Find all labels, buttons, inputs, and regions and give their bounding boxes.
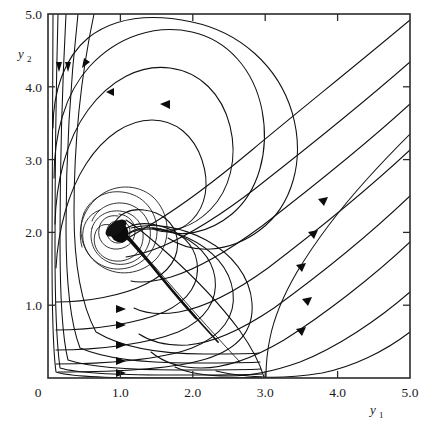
plot-frame bbox=[48, 14, 410, 378]
trajectory-1e bbox=[74, 14, 259, 354]
flow-arrow-group bbox=[56, 58, 328, 377]
y-tick-label-5: 5.0 bbox=[25, 7, 42, 22]
trajectory-group bbox=[52, 14, 410, 378]
flow-arrow-downright-1 bbox=[82, 58, 90, 68]
flow-arrow-right-1 bbox=[116, 305, 126, 313]
x-tick-label-3: 3.0 bbox=[257, 385, 274, 400]
trajectory-1b bbox=[55, 14, 262, 375]
x-axis-label-text: y bbox=[368, 402, 376, 417]
trajectory-1d bbox=[66, 14, 260, 363]
y-axis-label: y 2 bbox=[16, 46, 32, 64]
x-tick-label-4: 4.0 bbox=[329, 385, 346, 400]
x-axis-label: y 1 bbox=[368, 402, 384, 420]
trajectory-2c bbox=[55, 67, 233, 230]
trajectory-15 bbox=[122, 20, 410, 242]
y-tick-label-3: 3.0 bbox=[25, 153, 42, 168]
y-tick-label-group: 5.0 4.0 3.0 2.0 1.0 bbox=[25, 7, 42, 313]
flow-arrow-right-3 bbox=[116, 341, 126, 349]
x-tick-group bbox=[120, 14, 337, 378]
flow-arrow-upleft-2 bbox=[308, 230, 318, 239]
trajectory-14 bbox=[126, 62, 410, 257]
x-tick-label-5: 5.0 bbox=[402, 385, 419, 400]
trajectory-13 bbox=[131, 104, 410, 282]
flow-arrow-upleft-1 bbox=[318, 197, 328, 206]
y-tick-label-2: 2.0 bbox=[25, 225, 42, 240]
flow-arrow-upleft-4 bbox=[302, 297, 312, 306]
trajectory-2e bbox=[53, 18, 297, 249]
phase-portrait-svg: 5.0 4.0 3.0 2.0 1.0 0 1.0 2.0 3.0 4.0 5.… bbox=[0, 0, 433, 424]
x-tick-label-1: 1.0 bbox=[112, 385, 129, 400]
trajectory-1 bbox=[52, 14, 262, 378]
phase-portrait-figure: 5.0 4.0 3.0 2.0 1.0 0 1.0 2.0 3.0 4.0 5.… bbox=[0, 0, 433, 424]
y-axis-label-text: y bbox=[16, 46, 24, 61]
x-axis-label-subscript: 1 bbox=[379, 410, 384, 420]
flow-arrow-right-2 bbox=[116, 321, 126, 329]
y-tick-group bbox=[48, 87, 410, 305]
flow-arrow-left-2 bbox=[160, 100, 170, 109]
y-tick-label-4: 4.0 bbox=[25, 80, 42, 95]
x-tick-label-2: 2.0 bbox=[184, 385, 201, 400]
x-tick-label-0: 0 bbox=[35, 385, 42, 400]
x-tick-label-group: 0 1.0 2.0 3.0 4.0 5.0 bbox=[35, 385, 419, 400]
separatrix-right bbox=[266, 134, 410, 377]
trajectory-11 bbox=[139, 196, 410, 345]
y-tick-label-1: 1.0 bbox=[25, 298, 42, 313]
y-axis-label-subscript: 2 bbox=[27, 54, 32, 64]
